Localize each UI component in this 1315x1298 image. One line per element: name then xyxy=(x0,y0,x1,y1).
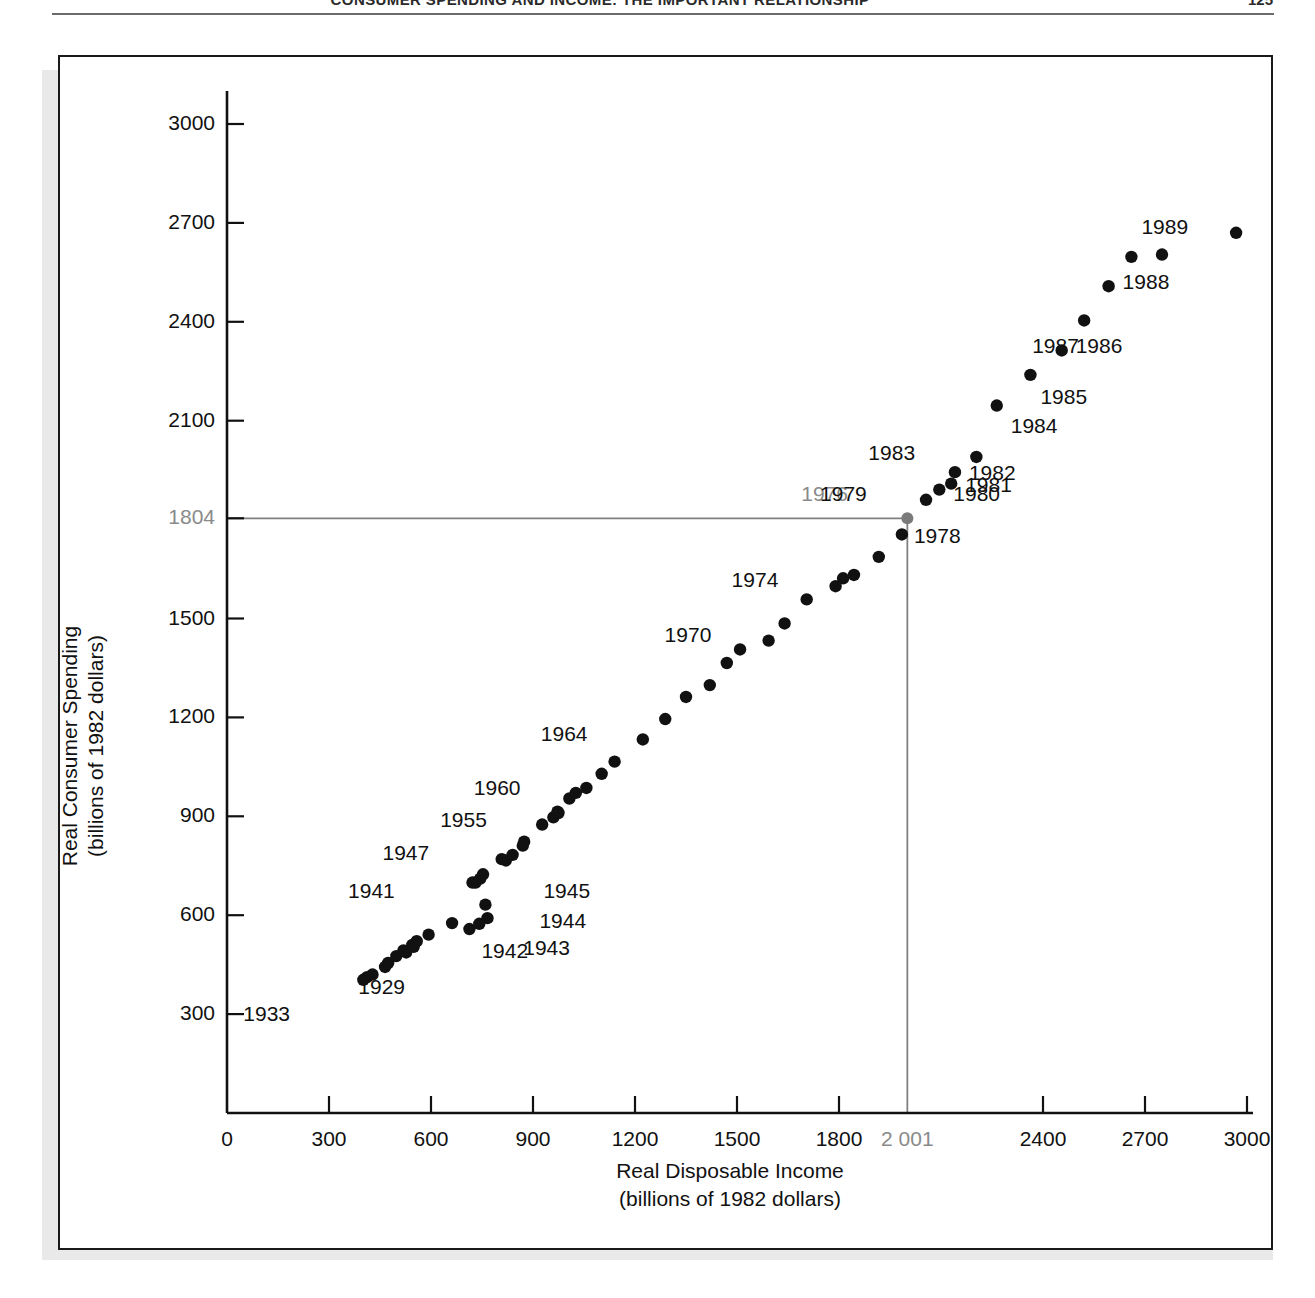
x-tick-label: 2 001 xyxy=(847,1127,967,1151)
point-label-1964: 1964 xyxy=(541,722,588,746)
data-point xyxy=(801,593,813,605)
point-label-1978: 1978 xyxy=(914,524,961,548)
data-point xyxy=(481,912,493,924)
data-point xyxy=(680,691,692,703)
y-tick-label: 1804 xyxy=(95,505,215,529)
x-axis-title-line1: Real Disposable Income xyxy=(420,1157,1040,1185)
y-tick-label: 3000 xyxy=(95,111,215,135)
data-point xyxy=(551,805,563,817)
x-axis-title: Real Disposable Income (billions of 1982… xyxy=(420,1157,1040,1213)
point-label-1987: 1987 xyxy=(1032,334,1079,358)
point-label-1955: 1955 xyxy=(440,808,487,832)
x-tick-label: 3000 xyxy=(1187,1127,1307,1151)
data-point xyxy=(1024,369,1036,381)
y-axis-title-line1: Real Consumer Spending xyxy=(57,581,83,911)
data-point xyxy=(1102,280,1114,292)
data-point xyxy=(1078,314,1090,326)
data-point xyxy=(762,634,774,646)
point-label-1989: 1989 xyxy=(1141,215,1188,239)
y-tick-label: 1500 xyxy=(95,606,215,630)
data-point xyxy=(518,835,530,847)
data-point xyxy=(991,399,1003,411)
point-label-1985: 1985 xyxy=(1040,385,1087,409)
data-point xyxy=(422,928,434,940)
data-point xyxy=(580,782,592,794)
point-label-1945: 1945 xyxy=(543,879,590,903)
data-point xyxy=(608,755,620,767)
point-label-1933: 1933 xyxy=(243,1002,290,1026)
data-point xyxy=(477,868,489,880)
scatter-plot: 3006009001200150018042100240027003000 03… xyxy=(0,0,1315,1298)
data-point xyxy=(920,494,932,506)
y-tick-label: 300 xyxy=(95,1001,215,1025)
point-label-1970: 1970 xyxy=(665,623,712,647)
axes xyxy=(227,91,1253,1113)
point-label-1947: 1947 xyxy=(382,841,429,865)
data-point xyxy=(933,483,945,495)
data-point xyxy=(637,733,649,745)
data-point xyxy=(848,569,860,581)
reference-data-point xyxy=(901,512,913,524)
y-tick-label: 600 xyxy=(95,902,215,926)
point-label-1979: 1979 xyxy=(820,482,867,506)
point-label-1941: 1941 xyxy=(348,879,395,903)
data-point xyxy=(570,787,582,799)
point-label-1929: 1929 xyxy=(358,975,405,999)
data-point xyxy=(446,917,458,929)
point-label-1942: 1942 xyxy=(481,939,528,963)
point-label-1986: 1986 xyxy=(1076,334,1123,358)
y-tick-label: 900 xyxy=(95,803,215,827)
plot-canvas xyxy=(0,0,1315,1298)
data-point xyxy=(1156,248,1168,260)
data-point xyxy=(778,617,790,629)
point-label-1943: 1943 xyxy=(523,936,570,960)
point-label-1983: 1983 xyxy=(868,441,915,465)
y-tick-label: 1200 xyxy=(95,704,215,728)
data-point xyxy=(734,643,746,655)
data-point xyxy=(595,768,607,780)
data-point xyxy=(873,551,885,563)
data-point xyxy=(704,679,716,691)
data-point xyxy=(829,580,841,592)
data-point xyxy=(1230,227,1242,239)
point-label-1974: 1974 xyxy=(732,568,779,592)
y-axis-title: Real Consumer Spending (billions of 1982… xyxy=(57,581,109,911)
point-label-1984: 1984 xyxy=(1011,414,1058,438)
data-point xyxy=(536,818,548,830)
data-point xyxy=(411,935,423,947)
point-label-1982: 1982 xyxy=(969,461,1016,485)
data-point xyxy=(506,849,518,861)
data-point xyxy=(397,944,409,956)
y-tick-label: 2100 xyxy=(95,408,215,432)
point-label-1960: 1960 xyxy=(474,776,521,800)
y-axis-title-line2: (billions of 1982 dollars) xyxy=(83,581,109,911)
data-point xyxy=(479,898,491,910)
reference-lines xyxy=(229,518,907,1113)
x-axis-title-line2: (billions of 1982 dollars) xyxy=(420,1185,1040,1213)
data-point xyxy=(721,657,733,669)
y-tick-label: 2700 xyxy=(95,210,215,234)
data-point xyxy=(659,713,671,725)
data-point xyxy=(896,528,908,540)
data-point xyxy=(1125,251,1137,263)
point-label-1944: 1944 xyxy=(539,909,586,933)
point-label-1988: 1988 xyxy=(1123,270,1170,294)
data-point xyxy=(949,466,961,478)
data-point xyxy=(379,961,391,973)
y-tick-label: 2400 xyxy=(95,309,215,333)
